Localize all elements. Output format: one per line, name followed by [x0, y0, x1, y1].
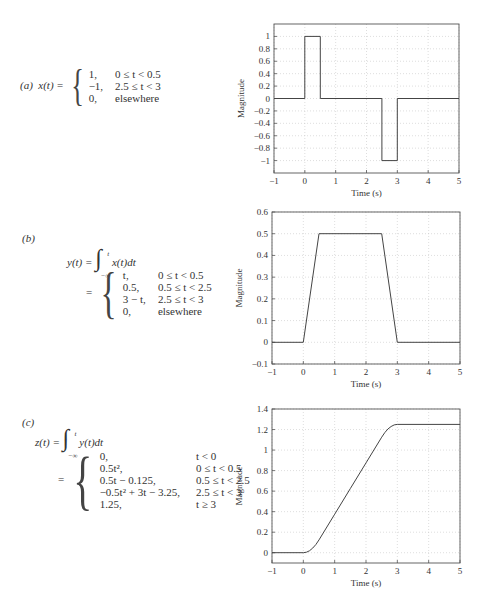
x-tick-label: 0: [301, 566, 306, 576]
x-tick-label: 3: [395, 367, 400, 377]
panel-label-c: (c): [22, 416, 34, 428]
brace-icon: {: [100, 268, 116, 318]
y-tick-label: 0.2: [257, 294, 268, 304]
x-tick-label: 2: [364, 566, 369, 576]
x-tick-label: 0: [303, 176, 308, 186]
y-tick-label: −0.1: [252, 359, 268, 369]
brace-icon: {: [73, 450, 92, 510]
y-tick-label: −0.4: [254, 118, 271, 128]
y-tick-label: 0: [264, 337, 269, 347]
x-tick-label: 5: [457, 176, 462, 186]
y-tick-label: 0.4: [257, 250, 269, 260]
y-tick-label: −0.8: [254, 143, 271, 153]
grid: [272, 409, 460, 563]
piecewise-b: { t,0 ≤ t < 0.50.5,0.5 ≤ t < 2.53 − t,2.…: [95, 268, 212, 318]
y-tick-label: 0.8: [257, 466, 269, 476]
y-tick-label: −1: [260, 156, 270, 166]
x-tick-label: 2: [364, 367, 369, 377]
case-value: 0.5,: [123, 281, 146, 293]
x-tick-label: −1: [269, 176, 279, 186]
panel-label-a: (a): [20, 79, 33, 91]
x-tick-label: 5: [458, 367, 463, 377]
cases-c: 0,t < 00.5t²,0 ≤ t < 0.50.5t − 0.125,0.5…: [100, 450, 250, 510]
y-tick-label: 0.4: [259, 69, 271, 79]
x-tick-label: 0: [301, 367, 306, 377]
y-tick-label: 1: [266, 31, 271, 41]
lhs-c: z(t) =: [35, 436, 60, 448]
equation-c: = { 0,t < 00.5t²,0 ≤ t < 0.50.5t − 0.125…: [58, 450, 250, 510]
y-tick-label: 0: [266, 94, 271, 104]
integral-c: z(t) = ∫t−∞ y(t)dt: [35, 428, 103, 448]
equals-b: =: [86, 286, 92, 298]
y-tick-label: 0.2: [259, 81, 270, 91]
y-tick-label: 0.2: [257, 527, 268, 537]
plot-y-of-t: −1012345−0.100.10.20.30.40.50.6Time (s)M…: [230, 192, 481, 404]
y-tick-label: 0.6: [259, 56, 271, 66]
y-tick-label: 1.2: [257, 425, 268, 435]
y-tick-label: 0: [264, 548, 269, 558]
x-tick-label: 1: [332, 566, 337, 576]
x-tick-label: 4: [426, 367, 431, 377]
case-value: 0,: [100, 450, 180, 462]
y-tick-label: 0.8: [259, 44, 271, 54]
y-tick-label: 0.6: [257, 486, 269, 496]
case-condition: 2.5 ≤ t < 3: [115, 80, 161, 92]
y-tick-label: 0.5: [257, 229, 269, 239]
case-value: −1,: [89, 80, 103, 92]
y-axis-label: Magnitude: [236, 79, 246, 118]
cases-a: 1,0 ≤ t < 0.5−1,2.5 ≤ t < 30,elsewhere: [89, 68, 161, 104]
lhs-b: y(t) =: [67, 256, 92, 268]
y-tick-label: 0.1: [257, 316, 268, 326]
series-line: [272, 424, 460, 552]
y-tick-label: 1: [264, 445, 269, 455]
plot-z-of-t: −101234500.20.40.60.811.21.4Time (s)Magn…: [230, 389, 481, 594]
case-condition: 0 ≤ t < 0.5: [115, 68, 161, 80]
case-value: 0.5t − 0.125,: [100, 474, 180, 486]
x-tick-label: 4: [426, 566, 431, 576]
grid: [272, 212, 460, 364]
piecewise-c: { 0,t < 00.5t²,0 ≤ t < 0.50.5t − 0.125,0…: [67, 450, 250, 510]
x-tick-label: 1: [333, 176, 338, 186]
plot-x-of-t: −1012345−1−0.8−0.6−0.4−0.200.20.40.60.81…: [230, 4, 481, 213]
x-tick-label: −1: [267, 367, 277, 377]
case-value: 0,: [123, 305, 146, 317]
cases-b: t,0 ≤ t < 0.50.5,0.5 ≤ t < 2.53 − t,2.5 …: [123, 269, 212, 317]
case-condition: 0.5 ≤ t < 2.5: [158, 281, 212, 293]
case-value: 3 − t,: [123, 293, 146, 305]
case-value: 0,: [89, 92, 103, 104]
x-tick-label: −1: [267, 566, 277, 576]
y-tick-label: 0.3: [257, 272, 269, 282]
case-value: 1,: [89, 68, 103, 80]
case-value: 1.25,: [100, 498, 180, 510]
case-condition: 2.5 ≤ t < 3: [158, 293, 212, 305]
x-axis-label: Time (s): [351, 379, 381, 389]
y-axis-label: Magnitude: [234, 269, 244, 308]
equation-a: (a) x(t) = { 1,0 ≤ t < 0.5−1,2.5 ≤ t < 3…: [20, 66, 161, 106]
x-tick-label: 2: [364, 176, 369, 186]
y-tick-label: −0.6: [254, 131, 271, 141]
plot-frame: [272, 409, 460, 563]
y-tick-label: 0.4: [257, 507, 269, 517]
y-tick-label: −0.2: [254, 106, 270, 116]
case-condition: elsewhere: [115, 92, 161, 104]
x-tick-label: 3: [395, 176, 400, 186]
case-condition: 0 ≤ t < 0.5: [158, 269, 212, 281]
case-condition: elsewhere: [158, 305, 212, 317]
y-tick-label: 0.6: [257, 207, 269, 217]
x-tick-label: 4: [426, 176, 431, 186]
piecewise-a: { 1,0 ≤ t < 0.5−1,2.5 ≤ t < 30,elsewhere: [67, 66, 161, 106]
y-axis-label: Magnitude: [234, 467, 244, 506]
x-tick-label: 1: [332, 367, 337, 377]
x-tick-label: 3: [395, 566, 400, 576]
case-value: 0.5t²,: [100, 462, 180, 474]
panel-label-b: (b): [22, 232, 35, 244]
x-axis-label: Time (s): [351, 578, 381, 588]
equals-c: =: [58, 473, 64, 485]
equation-b: = { t,0 ≤ t < 0.50.5,0.5 ≤ t < 2.53 − t,…: [86, 268, 212, 318]
case-value: −0.5t² + 3t − 3.25,: [100, 486, 180, 498]
y-tick-label: 1.4: [257, 404, 269, 414]
brace-icon: {: [71, 66, 84, 106]
lhs-a: x(t) =: [38, 79, 63, 91]
x-tick-label: 5: [458, 566, 463, 576]
case-value: t,: [123, 269, 146, 281]
